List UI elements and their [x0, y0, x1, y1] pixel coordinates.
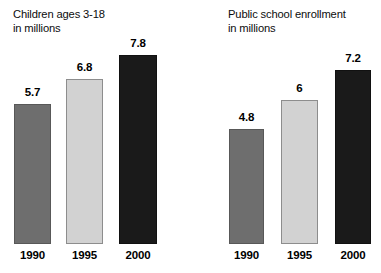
- bar-value-1995: 6: [271, 82, 328, 94]
- plot-area-right: 4.8 1990 6 1995 7.2 2000: [190, 0, 381, 273]
- bar-label-1990: 1990: [219, 249, 274, 261]
- bar-value-1990: 5.7: [4, 86, 61, 98]
- bar-2000[interactable]: [335, 70, 371, 244]
- bar-1995[interactable]: [281, 100, 318, 244]
- bar-value-2000: 7.2: [325, 52, 381, 64]
- bar-2000[interactable]: [119, 55, 157, 244]
- chart-panel-children-ages: Children ages 3-18 in millions 5.7 1990 …: [0, 0, 190, 273]
- plot-area-left: 5.7 1990 6.8 1995 7.8 2000: [0, 0, 190, 273]
- bar-value-1990: 4.8: [219, 111, 274, 123]
- bar-label-1995: 1995: [56, 249, 113, 261]
- bar-label-1990: 1990: [4, 249, 61, 261]
- bar-1995[interactable]: [66, 79, 103, 244]
- bar-value-1995: 6.8: [56, 61, 113, 73]
- bar-label-2000: 2000: [325, 249, 381, 261]
- bar-1990[interactable]: [14, 104, 51, 244]
- chart-page: Children ages 3-18 in millions 5.7 1990 …: [0, 0, 381, 273]
- bar-value-2000: 7.8: [109, 37, 167, 49]
- bar-label-1995: 1995: [271, 249, 328, 261]
- chart-panel-public-school-enrollment: Public school enrollment in millions 4.8…: [190, 0, 381, 273]
- bar-label-2000: 2000: [109, 249, 167, 261]
- bar-1990[interactable]: [229, 129, 264, 244]
